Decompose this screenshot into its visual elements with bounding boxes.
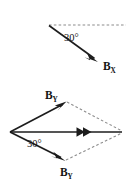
top-vector-label: B X	[103, 60, 117, 75]
top-angle-label: 30°	[64, 32, 79, 43]
diagram-bottom-group: 30° B Y B Y	[10, 89, 122, 180]
bottom-upper-vector-label-subscript: Y	[53, 96, 59, 104]
bottom-dashed-upper-side	[67, 102, 122, 131]
bottom-dashed-lower-side	[66, 133, 122, 160]
top-vector-label-subscript: X	[111, 67, 117, 75]
bottom-angle-label: 30°	[27, 138, 42, 149]
vector-diagram-svg: 30° B X	[0, 0, 129, 180]
bottom-lower-vector-label: B Y	[60, 166, 74, 180]
bottom-lower-vector-label-subscript: Y	[68, 173, 74, 180]
diagram-top-group: 30° B X	[49, 25, 126, 75]
top-vector-arrowhead	[85, 54, 98, 62]
figure-root: 30° B X	[0, 0, 129, 180]
bottom-upper-vector-shaft	[10, 105, 63, 133]
bottom-upper-vector-label: B Y	[45, 89, 59, 104]
bottom-resultant-arrowhead-second	[83, 127, 92, 137]
